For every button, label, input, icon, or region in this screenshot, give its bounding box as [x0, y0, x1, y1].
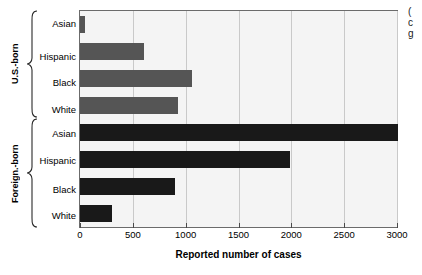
- category-label-us-asian: Asian: [4, 19, 76, 29]
- category-label-foreign-hispanic: Hispanic: [4, 156, 76, 166]
- x-tick-mark: [397, 223, 398, 228]
- side-note-text: ( c g: [408, 6, 422, 39]
- x-axis-ticks: 050010001500200025003000: [0, 229, 422, 245]
- x-tick-label-3000: 3000: [377, 229, 417, 241]
- bar-us-born-hispanic: [80, 43, 144, 60]
- bar-foreign-born-black: [80, 178, 175, 195]
- gridline: [186, 11, 187, 227]
- x-tick-mark: [239, 223, 240, 228]
- bar-foreign-born-white: [80, 205, 112, 222]
- x-tick-mark: [133, 223, 134, 228]
- x-tick-label-1000: 1000: [166, 229, 206, 241]
- category-label-foreign-white: White: [4, 211, 76, 221]
- bar-us-born-asian: [80, 16, 85, 33]
- category-label-us-black: Black: [4, 78, 76, 88]
- x-tick-mark: [186, 223, 187, 228]
- gridline: [397, 11, 398, 227]
- bar-foreign-born-asian: [80, 124, 398, 141]
- category-label-us-white: White: [4, 105, 76, 115]
- x-axis-title: Reported number of cases: [79, 249, 398, 260]
- gridline: [291, 11, 292, 227]
- category-label-foreign-black: Black: [4, 185, 76, 195]
- x-tick-mark: [291, 223, 292, 228]
- x-tick-label-0: 0: [60, 229, 100, 241]
- gridline: [239, 11, 240, 227]
- side-note-line-2: c: [408, 17, 422, 28]
- x-tick-mark: [344, 223, 345, 228]
- x-tick-label-2000: 2000: [271, 229, 311, 241]
- category-label-foreign-asian: Asian: [4, 129, 76, 139]
- category-label-us-hispanic: Hispanic: [4, 52, 76, 62]
- category-label-column: Asian Hispanic Black White Asian Hispani…: [0, 0, 76, 228]
- chart-figure: U.S.-born Foreign.-born Asian Hispanic B…: [0, 0, 422, 275]
- x-tick-mark: [80, 223, 81, 228]
- x-tick-label-500: 500: [113, 229, 153, 241]
- side-note-line-3: g: [408, 28, 422, 39]
- side-note-line-1: (: [408, 6, 422, 17]
- bar-foreign-born-hispanic: [80, 151, 290, 168]
- x-tick-label-2500: 2500: [324, 229, 364, 241]
- plot-area: [79, 10, 398, 228]
- bar-us-born-black: [80, 70, 192, 87]
- gridline: [344, 11, 345, 227]
- x-tick-label-1500: 1500: [219, 229, 259, 241]
- bar-us-born-white: [80, 97, 178, 114]
